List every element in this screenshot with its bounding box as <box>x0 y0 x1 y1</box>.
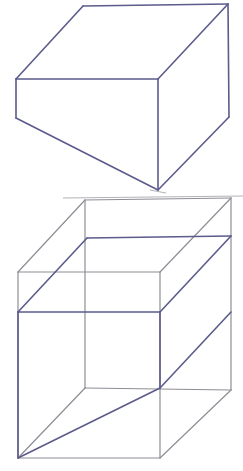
wedge-top-left-slant <box>18 238 87 312</box>
wedge-front-lower-slant <box>18 388 160 458</box>
drawing-page <box>0 0 243 471</box>
front-face-lower-slant <box>16 118 158 190</box>
cube-top-left-slant <box>18 200 85 272</box>
top-face-back-edge <box>83 4 228 6</box>
cube-bottom-right-slant <box>160 390 231 458</box>
geometry-figure-canvas <box>0 0 243 471</box>
right-vertical-edge <box>228 4 229 117</box>
wedge-top-right-slant <box>160 236 231 312</box>
figure-top-wedge <box>16 4 229 190</box>
right-lower-slant <box>158 117 229 190</box>
cube-top-right-slant <box>160 198 231 272</box>
figure-bottom-cube-with-wedge <box>18 198 231 458</box>
top-face-left-slant <box>16 6 83 79</box>
cube-back-top-edge <box>85 198 231 200</box>
top-face-right-slant <box>158 4 228 79</box>
wedge-top-back-edge <box>87 236 231 238</box>
wedge-right-lower-slant <box>160 312 231 388</box>
cube-bottom-left-slant <box>18 388 85 458</box>
wedge-edge-group-top <box>16 4 229 190</box>
scan-artifact-group <box>63 190 243 198</box>
